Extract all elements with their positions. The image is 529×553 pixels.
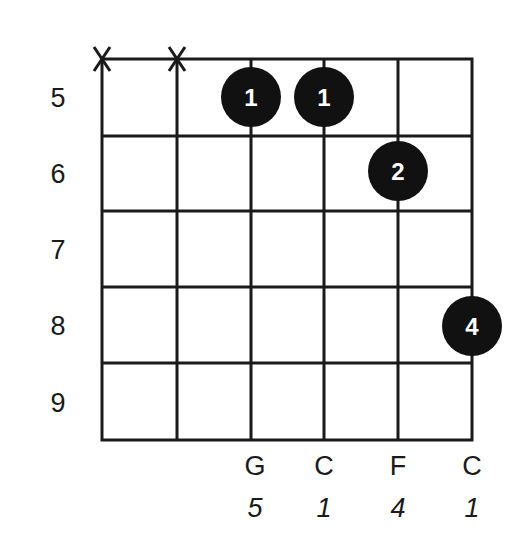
note-name: G (244, 451, 265, 481)
fret-number-5: 5 (50, 83, 65, 113)
finger-dot: 1 (294, 67, 354, 127)
interval-label: 5 (247, 493, 263, 523)
finger-label: 1 (244, 84, 257, 111)
finger-dot: 4 (442, 296, 502, 356)
finger-dot: 2 (368, 141, 428, 201)
interval-label: 1 (316, 493, 331, 523)
note-name: C (314, 451, 334, 481)
note-name: F (390, 451, 407, 481)
fret-number-8: 8 (50, 311, 65, 341)
interval-label: 1 (464, 493, 479, 523)
note-name: C (462, 451, 482, 481)
fretboard-grid (102, 59, 472, 440)
finger-label: 2 (391, 158, 404, 185)
finger-dot: 1 (221, 67, 281, 127)
finger-label: 4 (465, 313, 479, 340)
fret-number-7: 7 (50, 235, 65, 265)
finger-label: 1 (317, 84, 330, 111)
fret-number-9: 9 (50, 388, 65, 418)
fretboard-border (102, 59, 472, 440)
interval-label: 4 (390, 493, 405, 523)
chord-diagram: 5 6 7 8 9 1 1 2 4 G C F C 5 1 4 1 (0, 0, 529, 553)
fret-number-6: 6 (50, 159, 65, 189)
